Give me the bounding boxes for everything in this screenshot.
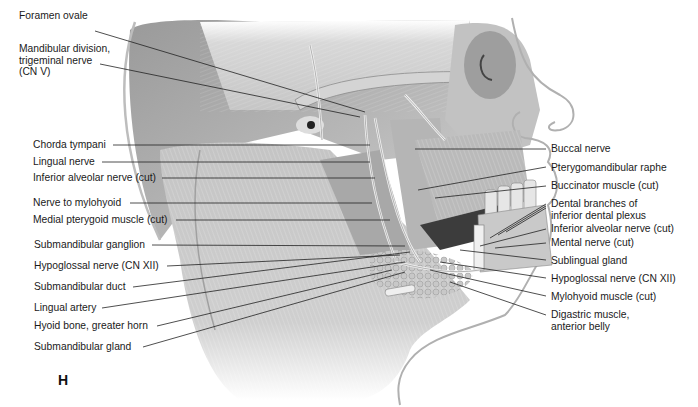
label-inferior-alveolar-nerve-left: Inferior alveolar nerve (cut) <box>33 172 156 184</box>
mandible-body <box>478 205 552 272</box>
orbit <box>464 31 516 99</box>
label-mental-nerve: Mental nerve (cut) <box>551 237 634 249</box>
label-mandibular-division: Mandibular division, trigeminal nerve (C… <box>19 43 110 78</box>
label-buccinator-muscle: Buccinator muscle (cut) <box>551 180 659 192</box>
label-submandibular-ganglion: Submandibular ganglion <box>34 239 145 251</box>
label-mylohyoid-muscle: Mylohyoid muscle (cut) <box>551 291 656 303</box>
label-submandibular-gland: Submandibular gland <box>34 341 131 353</box>
label-hyoid-bone: Hyoid bone, greater horn <box>34 320 148 332</box>
label-buccal-nerve: Buccal nerve <box>551 143 611 155</box>
label-nerve-to-mylohyoid: Nerve to mylohyoid <box>33 197 121 209</box>
label-lingual-nerve: Lingual nerve <box>33 156 95 168</box>
anatomy-figure: Foramen ovale Mandibular division, trige… <box>0 0 698 407</box>
label-digastric-muscle: Digastric muscle, anterior belly <box>551 309 629 332</box>
label-submandibular-duct: Submandibular duct <box>34 281 126 293</box>
label-foramen-ovale: Foramen ovale <box>19 10 88 22</box>
label-sublingual-gland: Sublingual gland <box>551 255 627 267</box>
label-hypoglossal-nerve-right: Hypoglossal nerve (CN XII) <box>551 273 676 285</box>
label-chorda-tympani: Chorda tympani <box>33 139 106 151</box>
label-inferior-alveolar-nerve-right: Inferior alveolar nerve (cut) <box>551 223 674 235</box>
label-medial-pterygoid: Medial pterygoid muscle (cut) <box>33 214 167 226</box>
label-lingual-artery: Lingual artery <box>34 302 96 314</box>
label-pterygomandibular-raphe: Pterygomandibular raphe <box>551 162 667 174</box>
mandible-cut-edge <box>474 225 484 270</box>
label-hypoglossal-nerve-left: Hypoglossal nerve (CN XII) <box>34 260 159 272</box>
label-dental-branches: Dental branches of inferior dental plexu… <box>551 198 646 221</box>
panel-letter: H <box>58 372 68 388</box>
